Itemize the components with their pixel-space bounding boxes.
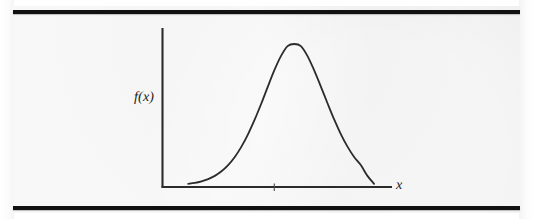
y-axis-label: f(x) <box>134 91 154 105</box>
x-axis-label: x <box>396 179 402 193</box>
plot-svg <box>0 0 535 219</box>
normal-distribution-plot: f(x) x <box>0 0 535 219</box>
normal-distribution-curve <box>188 44 374 184</box>
figure-root: f(x) x <box>0 0 535 219</box>
